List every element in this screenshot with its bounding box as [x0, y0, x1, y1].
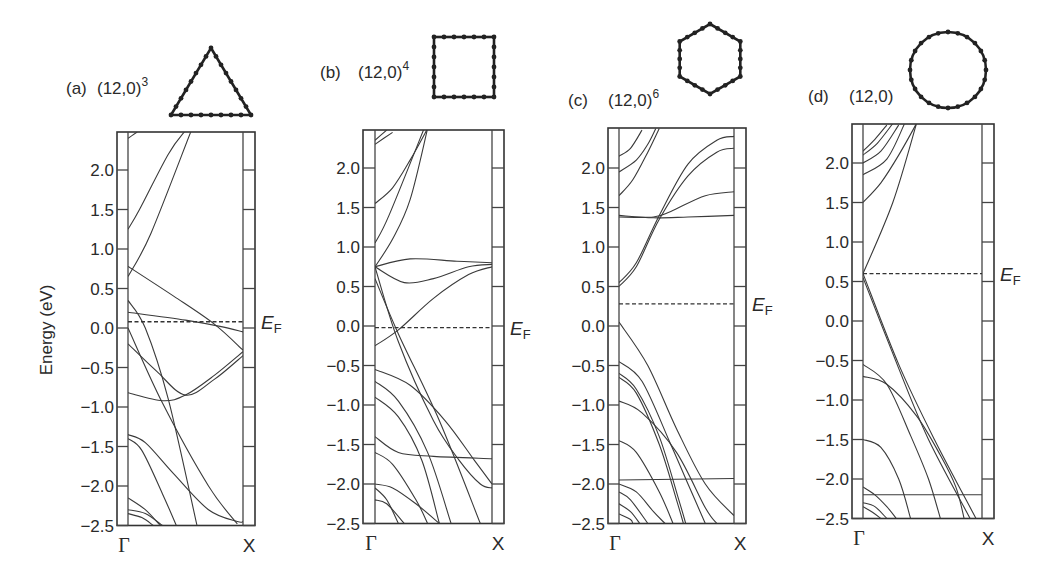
y-tick-label: 0.0 [825, 312, 849, 331]
y-tick-label: 1.5 [336, 199, 360, 218]
band-curve [619, 136, 734, 282]
fermi-level-label: EF [510, 318, 531, 342]
y-tick-label: 2.0 [825, 154, 849, 173]
band-curve [863, 364, 940, 518]
y-tick-label: −2.0 [326, 475, 360, 494]
gamma-point-label: Γ [853, 527, 865, 549]
band-curve [128, 131, 191, 277]
x-point-label: X [243, 535, 256, 556]
panel-letter: (d) [808, 87, 829, 106]
tube-label: (12,0)4 [358, 59, 409, 82]
band-curve [128, 131, 186, 230]
y-tick-label: −2.0 [571, 475, 605, 494]
band-curve [619, 129, 659, 196]
band-curve [128, 439, 176, 526]
band-curve [863, 124, 917, 274]
gamma-point-label: Γ [609, 532, 621, 554]
band-curve [863, 274, 976, 519]
band-curve [375, 452, 428, 523]
band-curve [619, 514, 633, 524]
band-curve [863, 124, 905, 175]
band-curve [375, 500, 404, 524]
panel-d: (d)(12,0)2.01.51.00.50.0−0.5−1.0−1.5−2.0… [808, 30, 1021, 549]
band-lines [128, 131, 243, 526]
band-curve [863, 507, 881, 519]
y-tick-label: 1.5 [581, 199, 605, 218]
y-tick-label: 2.0 [581, 159, 605, 178]
band-curve [128, 352, 243, 401]
y-tick-label: −1.5 [571, 436, 605, 455]
y-tick-label: −1.5 [326, 436, 360, 455]
panel-a: (a)(12,0)32.01.51.00.50.0−0.5−1.0−1.5−2.… [66, 46, 282, 556]
band-curve [375, 267, 492, 488]
circle-cross-section-icon [908, 30, 989, 111]
panel-letter: (b) [320, 63, 341, 82]
tube-label: (12,0) [849, 87, 893, 106]
band-curve [619, 129, 656, 173]
y-tick-label: −2.5 [815, 510, 849, 529]
y-tick-label: 1.5 [825, 194, 849, 213]
y-tick-label: 0.5 [90, 280, 114, 299]
band-structure-figure: (a)(12,0)32.01.51.00.50.0−0.5−1.0−1.5−2.… [0, 0, 1052, 578]
plot-frame [608, 128, 746, 524]
band-lines [619, 129, 734, 524]
band-curve [619, 322, 734, 515]
band-curve [619, 130, 642, 156]
plot-frame [363, 130, 504, 524]
band-curve [863, 125, 899, 163]
fermi-level-label: EF [1000, 264, 1021, 288]
band-curve [619, 479, 734, 481]
plot-frame [852, 124, 994, 519]
y-tick-label: −1.0 [815, 391, 849, 410]
y-tick-label: −2.5 [326, 515, 360, 534]
band-curve [128, 344, 243, 395]
y-tick-label: 1.5 [90, 201, 114, 220]
band-curve [375, 488, 398, 524]
band-curve [128, 300, 197, 525]
band-curve [375, 264, 492, 283]
y-tick-label: −0.5 [80, 359, 114, 378]
band-lines [375, 129, 492, 524]
y-tick-label: −1.0 [80, 398, 114, 417]
band-curve [863, 503, 887, 519]
y-tick-label: 0.0 [581, 317, 605, 336]
band-curve [375, 437, 492, 459]
y-tick-label: −2.0 [80, 477, 114, 496]
y-tick-label: 1.0 [336, 238, 360, 257]
band-curve [863, 125, 887, 151]
fermi-level-label: EF [261, 312, 282, 336]
y-tick-label: −1.5 [815, 431, 849, 450]
band-curve [375, 484, 439, 524]
y-tick-label: 0.5 [581, 278, 605, 297]
triangle-cross-section-icon [169, 46, 254, 118]
band-curve [128, 498, 160, 526]
y-tick-label: −0.5 [815, 352, 849, 371]
y-tick-label: −1.5 [80, 438, 114, 457]
y-tick-label: 1.0 [90, 240, 114, 259]
band-curve [619, 362, 705, 524]
y-tick-label: −1.0 [326, 396, 360, 415]
x-point-label: X [492, 533, 505, 554]
panel-b: (b)(12,0)42.01.51.00.50.0−0.5−1.0−1.5−2.… [320, 35, 531, 554]
x-point-label: X [734, 533, 747, 554]
fermi-level-label: EF [752, 294, 773, 318]
y-tick-label: 1.0 [825, 233, 849, 252]
band-curve [619, 373, 686, 523]
y-tick-label: −2.5 [571, 515, 605, 534]
y-tick-label: 0.0 [336, 317, 360, 336]
y-tick-label: 2.0 [90, 161, 114, 180]
band-curve [128, 132, 137, 138]
panel-letter: (c) [568, 91, 588, 110]
y-tick-label: −0.5 [326, 357, 360, 376]
panel-c: (c)(12,0)62.01.51.00.50.0−0.5−1.0−1.5−2.… [568, 22, 773, 554]
band-curve [375, 130, 387, 140]
x-point-label: X [982, 528, 995, 549]
y-tick-label: 0.0 [90, 319, 114, 338]
gamma-point-label: Γ [118, 534, 130, 556]
band-curve [619, 492, 648, 524]
y-tick-label: −2.0 [815, 470, 849, 489]
y-tick-label: 0.5 [825, 273, 849, 292]
tube-label: (12,0)3 [97, 75, 148, 98]
y-tick-label: 1.0 [581, 238, 605, 257]
band-curve [375, 397, 439, 523]
